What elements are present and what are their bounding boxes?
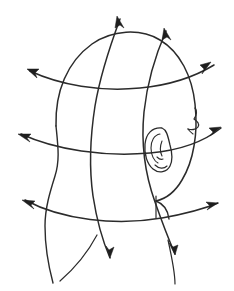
figure-canvas: Head with directional field lines Line d… [0,0,234,291]
head-diagram-svg [0,0,234,291]
background [0,0,234,291]
